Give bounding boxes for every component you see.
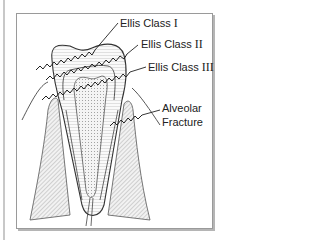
label-text: Ellis Class [148, 61, 199, 73]
label-ellis-class-1: Ellis Class I [120, 17, 178, 29]
label-ellis-class-3: Ellis Class III [148, 61, 214, 73]
label-numeral: II [195, 37, 203, 51]
label-fracture: Fracture [162, 116, 203, 128]
label-numeral: I [174, 16, 178, 30]
label-text: Ellis Class [141, 38, 192, 50]
label-ellis-class-2: Ellis Class II [141, 38, 203, 50]
label-alveolar: Alveolar [162, 102, 202, 114]
label-text: Ellis Class [120, 17, 171, 29]
label-numeral: III [202, 60, 214, 74]
